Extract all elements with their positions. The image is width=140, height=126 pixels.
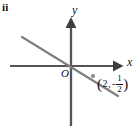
graph-canvas bbox=[0, 0, 140, 126]
y-axis-label: y bbox=[72, 4, 77, 16]
fraction-numerator: 1 bbox=[116, 74, 123, 83]
point-y-fraction: 1 2 bbox=[116, 74, 124, 94]
y-axis-arrowhead bbox=[66, 17, 77, 28]
x-axis-arrowhead bbox=[113, 61, 124, 72]
part-label: ii bbox=[2, 2, 9, 13]
close-paren: ) bbox=[123, 79, 128, 89]
origin-label: O bbox=[61, 68, 69, 79]
x-axis-label: x bbox=[127, 56, 132, 68]
point-coordinate-label: ( 2 , - 1 2 ) bbox=[97, 74, 128, 94]
point-marker bbox=[91, 74, 95, 78]
fraction-denominator: 2 bbox=[116, 85, 123, 94]
figure-container: ii y x O ( 2 , - 1 2 ) bbox=[0, 0, 140, 126]
